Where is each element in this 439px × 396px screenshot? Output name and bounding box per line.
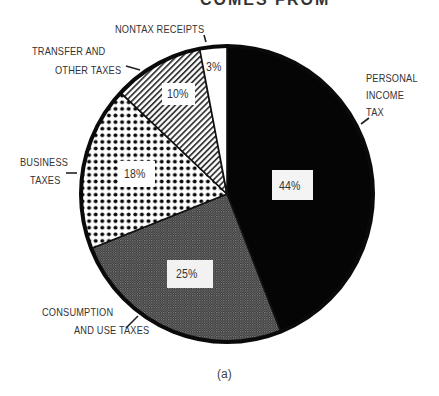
- pie-chart-figure: COMES FROM: [0, 0, 439, 396]
- pie-slices: [81, 46, 373, 342]
- value-label-personal: 44%: [279, 180, 301, 192]
- value-label-business: 18%: [124, 168, 146, 180]
- category-label-business-line2: TAXES: [30, 175, 60, 186]
- category-label-transfer-line2: OTHER TAXES: [55, 65, 121, 76]
- value-label-transfer: 10%: [167, 88, 189, 100]
- category-label-business-line1: BUSINESS: [20, 157, 68, 168]
- value-label-nontax: 3%: [206, 61, 222, 73]
- category-label-nontax: NONTAX RECEIPTS: [115, 24, 204, 35]
- figure-caption: (a): [217, 367, 232, 381]
- category-label-personal-line3: TAX: [366, 107, 384, 118]
- category-label-consumption-line2: AND USE TAXES: [74, 325, 149, 336]
- category-label-personal-line1: PERSONAL: [366, 73, 418, 84]
- category-label-consumption-line1: CONSUMPTION: [42, 307, 113, 318]
- leader-line-personal: [361, 118, 369, 124]
- category-label-personal-line2: INCOME: [366, 90, 404, 101]
- leader-line-nontax: [204, 35, 206, 42]
- value-label-consumption: 25%: [176, 268, 198, 280]
- category-label-transfer-line1: TRANSFER AND: [32, 46, 105, 57]
- leader-line-transfer: [126, 66, 140, 70]
